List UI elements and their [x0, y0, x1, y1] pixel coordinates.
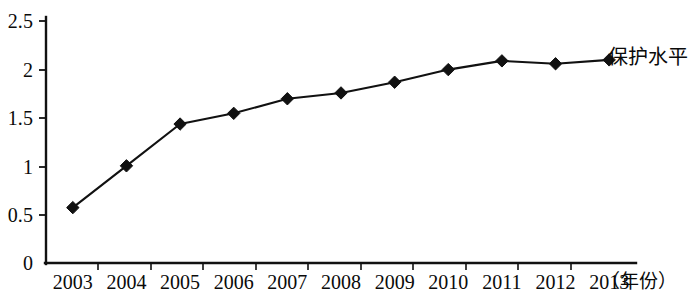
chart-canvas [0, 0, 690, 295]
y-axis-label-2: 2 [0, 60, 33, 80]
data-point-marker-2010 [442, 63, 454, 75]
line-chart: 2.5 2 1.5 1 0.5 0 2003200420052006200720… [0, 0, 690, 295]
y-axis-label-0: 0 [0, 253, 33, 273]
series-inline-label: 保护水平 [608, 47, 688, 67]
y-axis [39, 17, 46, 264]
x-axis [45, 263, 636, 270]
y-axis-label-1: 1 [0, 157, 33, 177]
x-axis-unit-label: （年份） [601, 272, 677, 291]
y-axis-label-1.5: 1.5 [0, 108, 33, 128]
data-point-marker-2007 [281, 93, 293, 105]
data-point-marker-2006 [228, 107, 240, 119]
data-point-marker-2008 [335, 87, 347, 99]
data-point-marker-2012 [549, 58, 561, 70]
y-axis-label-0.5: 0.5 [0, 205, 33, 225]
data-point-marker-2009 [388, 76, 400, 88]
data-series-baohushuiping [67, 54, 616, 214]
y-axis-label-2.5: 2.5 [0, 11, 33, 31]
series-line-path [73, 60, 609, 208]
data-point-marker-2011 [496, 55, 508, 67]
series-marker-group [67, 54, 616, 214]
